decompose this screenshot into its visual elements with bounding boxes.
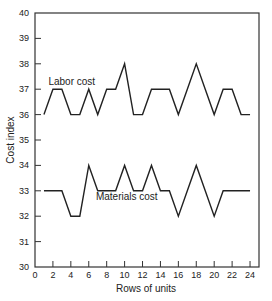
y-tick-label: 32 — [19, 211, 29, 221]
x-tick-label: 2 — [50, 270, 55, 280]
y-tick-label: 35 — [19, 135, 29, 145]
y-tick-label: 33 — [19, 186, 29, 196]
y-tick-label: 36 — [19, 110, 29, 120]
y-tick-label: 40 — [19, 8, 29, 18]
y-axis-ticks: 3031323334353637383940 — [19, 8, 41, 272]
line-chart: 3031323334353637383940 02468101214161820… — [0, 0, 272, 301]
y-tick-label: 39 — [19, 33, 29, 43]
series-label: Labor cost — [48, 76, 95, 87]
x-tick-label: 6 — [86, 270, 91, 280]
x-tick-label: 20 — [209, 270, 219, 280]
x-tick-label: 16 — [173, 270, 183, 280]
y-tick-label: 38 — [19, 59, 29, 69]
plot-border — [35, 13, 259, 267]
series-line-labor-cost — [44, 64, 250, 115]
x-tick-label: 4 — [68, 270, 73, 280]
x-tick-label: 22 — [227, 270, 237, 280]
x-axis-ticks: 024681012141618202224 — [32, 261, 255, 280]
series-labels: Labor costMaterials cost — [48, 76, 157, 201]
x-tick-label: 12 — [138, 270, 148, 280]
y-tick-label: 31 — [19, 237, 29, 247]
x-tick-label: 10 — [120, 270, 130, 280]
x-tick-label: 14 — [155, 270, 165, 280]
y-tick-label: 30 — [19, 262, 29, 272]
x-tick-label: 18 — [191, 270, 201, 280]
y-axis-title: Cost index — [5, 116, 16, 163]
plot-frame — [35, 13, 259, 267]
x-axis-title: Rows of units — [116, 283, 176, 294]
x-tick-label: 0 — [32, 270, 37, 280]
x-tick-label: 8 — [104, 270, 109, 280]
y-tick-label: 37 — [19, 84, 29, 94]
x-tick-label: 24 — [245, 270, 255, 280]
y-tick-label: 34 — [19, 160, 29, 170]
series-label: Materials cost — [96, 191, 158, 202]
